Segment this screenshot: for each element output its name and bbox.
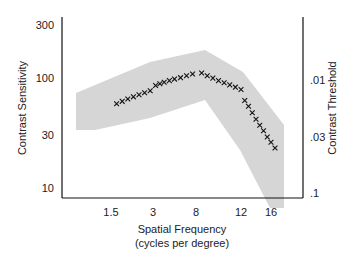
- x-axis-title: Spatial Frequency: [138, 223, 227, 235]
- contrast-sensitivity-chart: 300 100 30 10 .01 .03 .1 1.5 3 8 12 16 S…: [0, 0, 356, 262]
- y-tick-label: 100: [36, 72, 54, 84]
- x-tick-label: 3: [150, 206, 156, 218]
- y-tick-label: 300: [36, 19, 54, 31]
- x-tick-label: 16: [265, 206, 277, 218]
- confidence-band: [76, 50, 284, 208]
- x-axis-subtitle: (cycles per degree): [135, 237, 229, 249]
- y-right-tick-label: .01: [310, 74, 325, 86]
- y-tick-label: 10: [42, 182, 54, 194]
- y-axis-title: Contrast Sensitivity: [16, 60, 28, 155]
- x-tick-label: 12: [235, 206, 247, 218]
- x-tick-label: 1.5: [103, 206, 118, 218]
- y-right-tick-label: .03: [310, 131, 325, 143]
- y-tick-label: 30: [42, 129, 54, 141]
- y-right-axis-title: Contrast Threshold: [326, 61, 338, 154]
- x-tick-label: 8: [193, 206, 199, 218]
- y-right-tick-label: .1: [310, 187, 319, 199]
